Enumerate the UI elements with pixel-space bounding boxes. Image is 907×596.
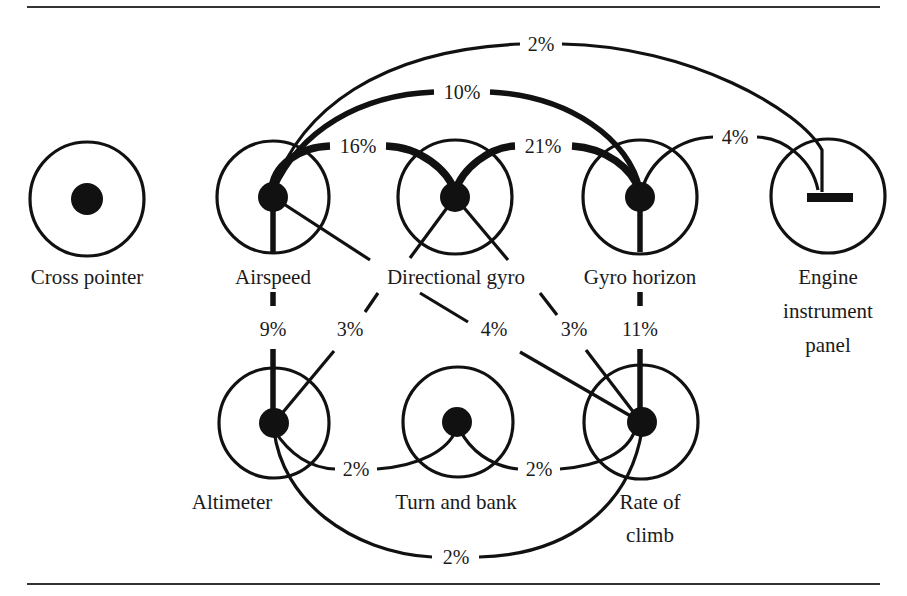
airspeed-dot [258, 182, 288, 212]
link-percentages: 2% 10% 16% 21% 4% 9% 3% 4% 3% 11% 2% 2% … [260, 33, 749, 568]
link-airspeed-gyro-horizon-b [490, 92, 640, 190]
link-turn-bank-roc [460, 430, 518, 469]
pct-altimeter-roc: 2% [443, 546, 470, 568]
link-airspeed-roc-b [420, 293, 468, 322]
pct-altimeter-turn-bank: 2% [343, 458, 370, 480]
altimeter-dot [259, 408, 289, 438]
pct-gyro-horizon-roc: 11% [622, 318, 658, 340]
link-airspeed-engine [273, 44, 520, 190]
gyro-horizon-dot [625, 182, 655, 212]
cross-pointer-dot [71, 183, 103, 215]
link-altimeter-turn-bank-b [377, 430, 456, 469]
pct-airspeed-engine: 2% [528, 33, 555, 55]
pct-gyro-horizon-engine: 4% [722, 126, 749, 148]
pct-dgyro-roc: 3% [561, 318, 588, 340]
pct-dgyro-gyro-horizon: 21% [525, 135, 562, 157]
link-airspeed-dgyro-b [386, 146, 455, 192]
link-dgyro-altimeter-b [365, 293, 378, 312]
directional-gyro-dot [440, 182, 470, 212]
label-cross-pointer: Cross pointer [31, 265, 144, 289]
instrument-labels: Cross pointer Airspeed Directional gyro … [31, 265, 873, 547]
link-turn-bank-roc-b [560, 430, 635, 469]
link-dgyro-roc-b [540, 293, 557, 315]
rate-of-climb-dot [627, 407, 657, 437]
label-engine-line1: Engine [798, 265, 857, 289]
pct-airspeed-dgyro: 16% [340, 135, 377, 157]
engine-panel-bar [807, 193, 853, 202]
pct-airspeed-roc: 4% [481, 318, 508, 340]
instrument-link-diagram: Cross pointer Airspeed Directional gyro … [0, 0, 907, 596]
link-airspeed-roc-c [520, 352, 641, 422]
link-gyro-horizon-engine-b [757, 137, 818, 190]
label-altimeter: Altimeter [192, 490, 272, 514]
label-rate-of-climb-line2: climb [626, 523, 674, 547]
label-directional-gyro: Directional gyro [387, 265, 525, 289]
pct-turn-bank-roc: 2% [526, 458, 553, 480]
pct-airspeed-altimeter: 9% [260, 318, 287, 340]
turn-and-bank-dot [442, 407, 472, 437]
label-engine-line3: panel [805, 333, 851, 357]
label-rate-of-climb-line1: Rate of [619, 490, 680, 514]
link-dgyro-gyro-horizon-b [572, 146, 640, 192]
label-engine-line2: instrument [783, 299, 873, 323]
instrument-dots [71, 182, 853, 438]
links [272, 44, 822, 557]
label-airspeed: Airspeed [235, 265, 311, 289]
label-turn-and-bank: Turn and bank [395, 490, 517, 514]
link-airspeed-engine-b [562, 44, 822, 192]
link-gyro-horizon-engine [642, 137, 713, 190]
label-gyro-horizon: Gyro horizon [584, 265, 697, 289]
pct-airspeed-gyro-horizon: 10% [444, 81, 481, 103]
pct-dgyro-altimeter: 3% [337, 318, 364, 340]
